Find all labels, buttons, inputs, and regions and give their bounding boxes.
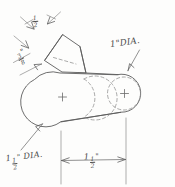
leader-one-inch-dia-group <box>128 50 140 71</box>
fraction-denominator: 2 <box>33 22 39 28</box>
leader-one-inch-dia-arrowhead <box>128 64 134 71</box>
fraction-denominator: 2 <box>12 164 18 170</box>
sketch-canvas: 12 38" 1"DIA. 112" DIA. 112" <box>0 0 175 187</box>
leader-one-half-dia-group <box>21 124 43 150</box>
dim-38-lower-witness <box>20 64 42 75</box>
inch-mark: " <box>16 152 21 161</box>
part-body-group <box>21 72 141 127</box>
fraction-denominator: 2 <box>90 163 96 169</box>
dim-half-top-group <box>21 12 61 29</box>
dim-half-tick-upper-right <box>47 15 56 19</box>
angled-arm-outline <box>45 35 87 73</box>
inch-mark: " <box>95 152 99 161</box>
dim-label-one-half-width: 112" <box>84 152 100 169</box>
angled-arm-group <box>45 35 87 73</box>
dia-suffix: DIA. <box>23 149 43 161</box>
fraction-half-top: 12 <box>32 15 38 28</box>
whole-number: 1 <box>84 151 90 161</box>
leader-one-half-dia-line <box>21 124 43 150</box>
